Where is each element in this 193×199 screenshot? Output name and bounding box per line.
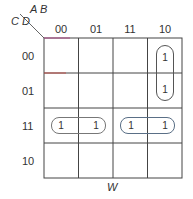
var-label-cd: C D [11,15,30,27]
cell-1-3: 1 [160,84,170,95]
cell-2-1: 1 [91,120,101,131]
row-label-00: 00 [22,50,40,62]
cell-2-3: 1 [160,120,170,131]
col-label-01: 01 [79,23,113,35]
row-label-10: 10 [22,155,40,167]
bottom-label-w: W [107,181,117,193]
var-label-ab: A B [30,3,47,15]
cell-0-3: 1 [160,52,170,63]
row-label-11: 11 [22,120,40,132]
cell-2-0: 1 [56,120,66,131]
col-label-11: 11 [113,23,147,35]
cell-2-2: 1 [126,120,136,131]
col-label-00: 00 [44,23,78,35]
col-label-10: 10 [148,23,182,35]
row-label-01: 01 [22,85,40,97]
